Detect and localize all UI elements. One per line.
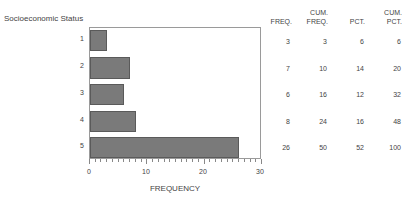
x-tick-mark <box>215 159 216 162</box>
cell-pct: 16 <box>342 118 364 125</box>
category-label-2: 2 <box>74 62 84 69</box>
x-tick-30: 30 <box>250 168 270 175</box>
cell-cum-pct: 20 <box>378 65 401 72</box>
category-label-4: 4 <box>74 116 84 123</box>
x-tick-mark <box>209 159 210 162</box>
x-tick-mark <box>141 159 142 162</box>
cell-pct: 14 <box>342 65 364 72</box>
bar-status-3 <box>90 84 124 105</box>
x-axis-ticks <box>89 159 262 165</box>
cell-cum-pct: 6 <box>378 38 401 45</box>
x-tick-mark <box>244 159 245 162</box>
cell-cum-freq: 3 <box>305 38 327 45</box>
cell-cum-freq: 50 <box>305 144 327 151</box>
x-tick-mark <box>261 159 262 164</box>
x-tick-10: 10 <box>136 168 156 175</box>
cell-cum-pct: 100 <box>378 144 401 151</box>
header-cum-pct-line1: CUM. <box>375 8 402 17</box>
header-pct: PCT. <box>340 17 365 26</box>
x-tick-mark <box>158 159 159 162</box>
x-tick-0: 0 <box>79 168 99 175</box>
x-tick-mark <box>164 159 165 162</box>
x-tick-mark <box>181 159 182 162</box>
cell-freq: 8 <box>270 118 290 125</box>
bar-status-4 <box>90 111 136 132</box>
cell-cum-pct: 32 <box>378 91 401 98</box>
header-cum-freq-line2: FREQ. <box>300 17 328 26</box>
header-cum-pct-line2: PCT. <box>375 17 402 26</box>
category-label-5: 5 <box>74 142 84 149</box>
x-tick-mark <box>175 159 176 162</box>
category-label-3: 3 <box>74 89 84 96</box>
cell-freq: 7 <box>270 65 290 72</box>
x-tick-20: 20 <box>193 168 213 175</box>
x-tick-mark <box>232 159 233 162</box>
x-tick-mark <box>129 159 130 162</box>
cell-freq: 6 <box>270 91 290 98</box>
bar-status-1 <box>90 30 107 51</box>
cell-cum-freq: 24 <box>305 118 327 125</box>
x-tick-mark <box>152 159 153 162</box>
header-cum-freq-line1: CUM. <box>300 8 328 17</box>
cell-pct: 52 <box>342 144 364 151</box>
x-tick-mark <box>118 159 119 162</box>
x-tick-mark <box>135 159 136 162</box>
bar-status-5 <box>90 137 239 158</box>
cell-cum-pct: 48 <box>378 118 401 125</box>
x-tick-mark <box>123 159 124 162</box>
x-tick-mark <box>112 159 113 162</box>
x-tick-mark <box>100 159 101 162</box>
x-tick-mark <box>95 159 96 162</box>
x-tick-mark <box>169 159 170 162</box>
x-tick-mark <box>186 159 187 162</box>
x-tick-mark <box>250 159 251 162</box>
x-tick-mark <box>146 159 147 164</box>
cell-freq: 26 <box>270 144 290 151</box>
category-label-1: 1 <box>74 35 84 42</box>
bar-status-2 <box>90 57 130 79</box>
x-axis-title: FREQUENCY <box>140 184 210 193</box>
x-tick-mark <box>255 159 256 162</box>
x-tick-mark <box>227 159 228 162</box>
y-axis-title: Socioeconomic Status <box>4 14 83 23</box>
header-freq: FREQ. <box>266 17 292 26</box>
x-tick-mark <box>238 159 239 162</box>
x-tick-mark <box>221 159 222 162</box>
x-tick-mark <box>106 159 107 162</box>
x-tick-mark <box>204 159 205 164</box>
cell-freq: 3 <box>270 38 290 45</box>
cell-cum-freq: 16 <box>305 91 327 98</box>
x-tick-mark <box>192 159 193 162</box>
x-tick-mark <box>198 159 199 162</box>
cell-cum-freq: 10 <box>305 65 327 72</box>
plot-area <box>89 27 261 159</box>
cell-pct: 6 <box>342 38 364 45</box>
cell-pct: 12 <box>342 91 364 98</box>
x-tick-mark <box>89 159 90 164</box>
